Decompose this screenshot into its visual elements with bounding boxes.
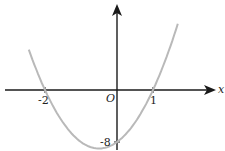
origin-label: O	[106, 92, 115, 105]
tick-label-1: 1	[150, 94, 157, 107]
x-axis-label: x	[218, 83, 225, 96]
tick-label-neg2: -2	[38, 94, 49, 107]
parabola-chart: -2 1 O -8 x	[0, 0, 225, 151]
tick-label-neg8: -8	[100, 136, 111, 149]
parabola-curve	[29, 24, 178, 149]
